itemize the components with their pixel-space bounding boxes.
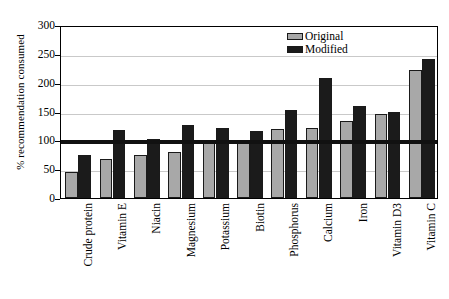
legend-label-original: Original (305, 30, 343, 43)
x-axis: Crude proteinVitamin ENiacinMagnesiumPot… (60, 199, 438, 299)
bar-group (405, 27, 439, 198)
y-axis-tick-label: 100 (15, 136, 55, 148)
bar-modified (285, 110, 298, 198)
y-axis-tick-label: 250 (15, 49, 55, 61)
bar-modified (388, 112, 401, 199)
x-axis-tick-label: Magnesium (185, 203, 197, 257)
legend-label-modified: Modified (305, 43, 348, 56)
x-axis-tick-label: Vitamin D3 (391, 203, 403, 257)
bar-original (375, 114, 388, 198)
bar-original (237, 143, 250, 198)
legend-item-modified: Modified (287, 43, 348, 56)
bar-group (95, 27, 129, 198)
y-axis-tick-label: 0 (15, 193, 55, 205)
x-axis-tick-label: Iron (357, 203, 369, 222)
bar-original (65, 172, 78, 198)
plot-area: Original Modified (60, 26, 438, 199)
bars-layer (61, 27, 437, 198)
y-axis-tick-label: 150 (15, 107, 55, 119)
bar-original (306, 128, 319, 198)
x-axis-tick-label: Crude protein (82, 203, 94, 267)
bar-chart: % recommendation consumed 05010015020025… (0, 0, 449, 299)
bar-modified (319, 78, 332, 198)
bar-group (61, 27, 95, 198)
y-axis-tick-label: 50 (15, 164, 55, 176)
x-axis-tick-label: Vitamin E (116, 203, 128, 250)
x-axis-tick-label: Biotin (254, 203, 266, 232)
bar-original (100, 159, 113, 198)
x-axis-tick-label: Phosphorus (288, 203, 300, 257)
bar-original (409, 70, 422, 198)
legend: Original Modified (287, 30, 348, 56)
legend-item-original: Original (287, 30, 348, 43)
x-axis-tick-label: Vitamin C (425, 203, 437, 251)
bar-group (198, 27, 232, 198)
bar-group (370, 27, 404, 198)
gray-swatch-icon (287, 33, 303, 40)
bar-original (340, 121, 353, 198)
black-swatch-icon (287, 46, 303, 53)
bar-modified (147, 139, 160, 198)
y-axis-tick-label: 200 (15, 78, 55, 90)
bar-group (164, 27, 198, 198)
bar-original (203, 143, 216, 198)
bar-original (168, 152, 181, 198)
bar-group (233, 27, 267, 198)
bar-modified (78, 155, 91, 198)
x-axis-tick-label: Niacin (150, 203, 162, 234)
y-axis: 050100150200250300 (0, 0, 55, 299)
bar-original (271, 129, 284, 198)
bar-modified (353, 106, 366, 198)
bar-modified (422, 59, 435, 198)
recommendation-reference-line (61, 140, 437, 144)
bar-original (134, 155, 147, 198)
x-axis-tick-label: Potassium (219, 203, 231, 250)
x-axis-tick-label: Calcium (322, 203, 334, 242)
bar-modified (182, 125, 195, 198)
bar-group (130, 27, 164, 198)
bar-modified (216, 128, 229, 198)
y-axis-tick-label: 300 (15, 20, 55, 32)
